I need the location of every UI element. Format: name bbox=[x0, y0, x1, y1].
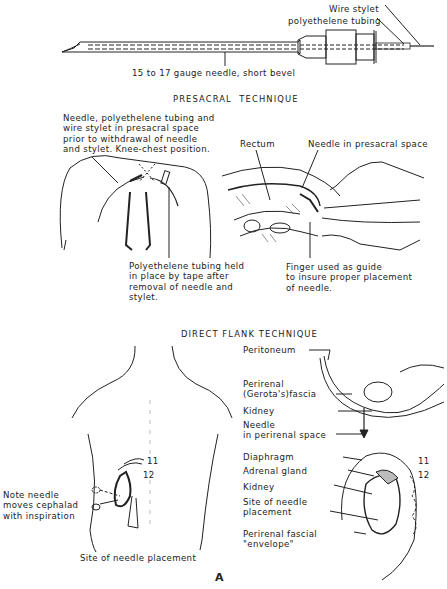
rectum-label: Rectum bbox=[240, 139, 275, 149]
presacral-sideview-drawing bbox=[222, 150, 424, 258]
rib-11-detail-label: 11 bbox=[418, 456, 430, 466]
needle-perirenal-label: Needle in perirenal space bbox=[243, 420, 326, 441]
kidney-detail-drawing bbox=[330, 453, 416, 580]
diaphragm-label: Diaphragm bbox=[243, 452, 294, 462]
kidney-detail-label: Kidney bbox=[243, 482, 274, 492]
presacral-left-caption: Needle, polyethelene tubing and wire sty… bbox=[63, 113, 215, 155]
peritoneum-label: Peritoneum bbox=[243, 345, 296, 355]
needle-presacral-label: Needle in presacral space bbox=[308, 139, 428, 149]
perirenal-envelope-label: Perirenal fascial "envelope" bbox=[243, 529, 317, 550]
finger-caption: Finger used as guide to insure proper pl… bbox=[286, 262, 412, 293]
adrenal-gland-label: Adrenal gland bbox=[243, 466, 307, 476]
gerotas-fascia-label: Perirenal (Gerota's)fascia bbox=[243, 379, 316, 400]
knee-chest-figure-drawing bbox=[60, 156, 210, 258]
figure-letter: A bbox=[215, 571, 224, 584]
rib-12-detail-label: 12 bbox=[418, 470, 430, 480]
kidney-cross-label: Kidney bbox=[243, 406, 274, 416]
polyethylene-tubing-label: polyethelene tubing bbox=[288, 16, 381, 26]
inspiration-note: Note needle moves cephalad with inspirat… bbox=[3, 490, 78, 521]
site-needle-placement-detail-label: Site of needle placement bbox=[243, 497, 307, 518]
presacral-technique-title: PRESACRAL TECHNIQUE bbox=[173, 94, 299, 104]
direct-flank-technique-title: DIRECT FLANK TECHNIQUE bbox=[181, 329, 318, 339]
rib-11-back-label: 11 bbox=[147, 456, 159, 466]
rib-12-back-label: 12 bbox=[143, 470, 155, 480]
tubing-caption: Polyethelene tubing held in place by tap… bbox=[129, 261, 244, 303]
needle-gauge-label: 15 to 17 gauge needle, short bevel bbox=[132, 68, 295, 78]
back-torso-drawing bbox=[72, 346, 232, 552]
cross-section-drawing bbox=[309, 350, 444, 438]
wire-stylet-label: Wire stylet bbox=[329, 4, 379, 14]
site-of-needle-placement-caption: Site of needle placement bbox=[80, 553, 196, 563]
